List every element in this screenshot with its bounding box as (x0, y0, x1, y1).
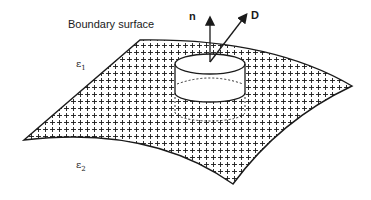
epsilon-2-label: ε2 (76, 159, 86, 173)
diagram-title: Boundary surface (68, 18, 154, 30)
normal-vector-label: n (189, 10, 196, 22)
boundary-diagram (0, 0, 371, 200)
displacement-vector-label: D (251, 9, 259, 21)
epsilon-1-label: ε1 (76, 58, 86, 72)
